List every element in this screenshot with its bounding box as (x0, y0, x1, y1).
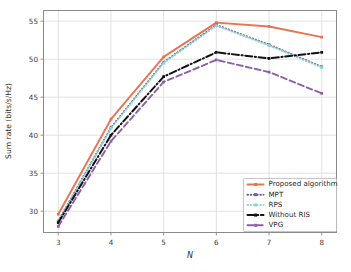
legend-label: RPS (269, 200, 283, 209)
data-point-marker (110, 127, 113, 130)
figure-bottom-margin (0, 262, 351, 272)
data-point-marker (57, 213, 60, 216)
y-tick-label: 40 (29, 131, 39, 140)
data-point-marker (320, 66, 323, 69)
data-point-marker (110, 134, 113, 137)
data-point-marker (215, 51, 218, 54)
y-tick-label: 30 (29, 207, 39, 216)
legend: Proposed algorithmMPTRPSWithout RISVPG (244, 179, 338, 232)
legend-label: VPG (269, 220, 284, 229)
data-point-marker (57, 225, 60, 228)
legend-label: MPT (269, 190, 284, 199)
data-point-marker (215, 59, 218, 62)
x-tick-label: 8 (319, 238, 324, 247)
data-point-marker (110, 118, 113, 121)
y-tick-label: 55 (29, 17, 38, 26)
data-point-marker (268, 71, 271, 74)
line-chart: 345678303540455055 N Sum rate (bits/s/Hz… (0, 0, 351, 272)
legend-marker-sample (254, 214, 257, 217)
x-tick-label: 6 (214, 238, 219, 247)
data-point-marker (215, 24, 218, 27)
y-tick-label: 35 (29, 169, 38, 178)
data-point-marker (268, 44, 271, 47)
chart-figure: 345678303540455055 N Sum rate (bits/s/Hz… (0, 0, 351, 272)
legend-label: Proposed algorithm (269, 179, 338, 188)
data-point-marker (320, 92, 323, 95)
data-point-marker (320, 51, 323, 54)
legend-marker-sample (254, 183, 257, 186)
x-tick-label: 7 (267, 238, 272, 247)
data-point-marker (320, 36, 323, 39)
legend-marker-sample (254, 224, 257, 227)
x-tick-label: 4 (109, 238, 114, 247)
data-point-marker (162, 62, 165, 65)
data-point-marker (268, 57, 271, 60)
legend-marker-sample (254, 203, 257, 206)
y-tick-label: 45 (29, 93, 38, 102)
data-point-marker (162, 56, 165, 59)
data-point-marker (268, 25, 271, 28)
legend-label: Without RIS (269, 210, 311, 219)
x-tick-label: 5 (161, 238, 166, 247)
x-tick-label: 3 (56, 238, 61, 247)
y-tick-label: 50 (29, 55, 39, 64)
data-point-marker (162, 81, 165, 84)
x-axis-title: N (187, 251, 193, 260)
data-point-marker (110, 140, 113, 143)
legend-marker-sample (254, 193, 257, 196)
y-axis-title: Sum rate (bits/s/Hz) (4, 83, 13, 159)
data-point-marker (162, 75, 165, 78)
